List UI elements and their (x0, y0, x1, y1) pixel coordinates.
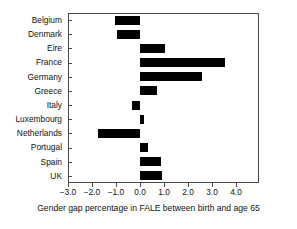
bar-belgium (115, 16, 140, 25)
x-axis-tick-label: −3.0 (60, 188, 77, 197)
bar-greece (140, 86, 157, 95)
y-axis-label-luxembourg: Luxembourg (15, 115, 62, 123)
bar-denmark (117, 30, 140, 39)
bar-netherlands (98, 129, 140, 138)
y-axis-label-portugal: Portugal (31, 143, 62, 151)
y-axis-label-uk: UK (50, 172, 62, 180)
y-axis-tick (68, 63, 72, 64)
y-axis-tick (68, 119, 72, 120)
y-axis-label-france: France (36, 58, 62, 66)
bar-portugal (140, 143, 148, 152)
x-axis-tick-label: −2.0 (84, 188, 101, 197)
y-axis-category-labels: BelgiumDenmarkEireFranceGermanyGreeceIta… (0, 13, 66, 183)
plot-area (68, 13, 259, 183)
y-axis-tick (68, 105, 72, 106)
y-axis-label-germany: Germany (28, 73, 62, 81)
bar-italy (132, 101, 140, 110)
x-axis-tick-label: 3.0 (206, 188, 218, 197)
x-axis-tick-label: 1.0 (158, 188, 170, 197)
y-axis-label-netherlands: Netherlands (17, 129, 62, 137)
y-axis-tick (68, 148, 72, 149)
y-axis-label-eire: Eire (47, 44, 62, 52)
y-axis-tick (68, 133, 72, 134)
y-axis-tick (68, 20, 72, 21)
bar-chart: BelgiumDenmarkEireFranceGermanyGreeceIta… (0, 0, 297, 229)
x-axis-title: Gender gap percentage in FALE between bi… (0, 203, 297, 213)
bar-germany (140, 72, 202, 81)
x-axis-tick-label: 0.0 (134, 188, 146, 197)
y-axis-tick (68, 34, 72, 35)
y-axis-label-spain: Spain (41, 158, 62, 166)
bar-luxembourg (140, 115, 144, 124)
bar-uk (140, 171, 162, 180)
y-axis-tick (68, 176, 72, 177)
x-axis-tick-label: −1.0 (108, 188, 125, 197)
y-axis-tick (68, 77, 72, 78)
x-axis-tick-label: 2.0 (182, 188, 194, 197)
bar-spain (140, 157, 161, 166)
y-axis-label-italy: Italy (47, 101, 62, 109)
y-axis-label-belgium: Belgium (32, 16, 62, 24)
y-axis-label-greece: Greece (35, 87, 62, 95)
bar-eire (140, 44, 165, 53)
x-axis-tick-label: 4.0 (230, 188, 242, 197)
y-axis-label-denmark: Denmark (28, 30, 62, 38)
y-axis-tick (68, 91, 72, 92)
y-axis-tick (68, 48, 72, 49)
bar-france (140, 58, 225, 67)
y-axis-tick (68, 162, 72, 163)
